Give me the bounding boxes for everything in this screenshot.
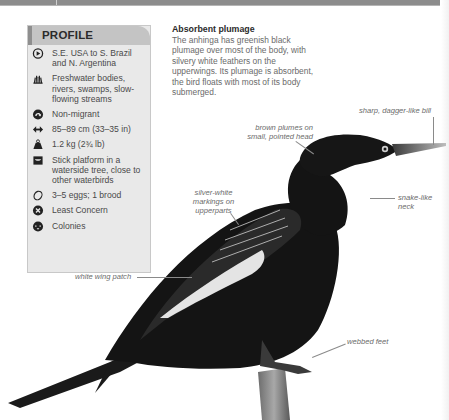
migration-arrow-icon: [32, 109, 44, 120]
profile-panel: PROFILE S.E. USA to S. Brazil and N. Arg…: [27, 25, 151, 273]
profile-item-text: Non-migrant: [52, 109, 99, 119]
profile-item-text: Stick platform in a waterside tree, clos…: [52, 155, 140, 185]
description-heading: Absorbent plumage: [172, 24, 322, 35]
nest-icon: [32, 155, 44, 166]
annotation-markings: silver-white markings on upperparts: [186, 188, 241, 215]
profile-list: S.E. USA to S. Brazil and N. Argentina F…: [28, 45, 150, 231]
annotation-neck: snake-like neck: [398, 193, 438, 211]
social-colonies-icon: [32, 221, 44, 232]
description-block: Absorbent plumage The anhinga has greeni…: [172, 24, 322, 97]
length-arrows-icon: [32, 124, 44, 135]
profile-item-status: Least Concern: [28, 205, 150, 215]
profile-item-text: Freshwater bodies, rivers, swamps, slow-…: [52, 73, 134, 103]
profile-item-text: Colonies: [52, 221, 85, 231]
profile-item-social: Colonies: [28, 221, 150, 231]
leader-neck: [370, 198, 395, 199]
profile-title: PROFILE: [42, 29, 93, 41]
profile-item-text: 3–5 eggs; 1 brood: [52, 190, 121, 200]
egg-icon: [32, 190, 44, 201]
conservation-status-icon: [32, 205, 44, 216]
leader-wing-patch: [137, 277, 192, 278]
range-globe-icon: [32, 48, 44, 59]
profile-item-text: S.E. USA to S. Brazil and N. Argentina: [52, 48, 132, 68]
description-body: The anhinga has greenish black plumage o…: [172, 35, 322, 97]
profile-item-range: S.E. USA to S. Brazil and N. Argentina: [28, 48, 150, 68]
habitat-reeds-icon: [32, 73, 44, 84]
annotation-head: brown plumes on small, pointed head: [238, 123, 313, 141]
annotation-bill: sharp, dagger-like bill: [359, 106, 449, 115]
profile-item-eggs: 3–5 eggs; 1 brood: [28, 190, 150, 200]
profile-item-text: Least Concern: [52, 205, 108, 215]
leader-bill: [433, 117, 434, 145]
profile-item-weight: 1.2 kg (2¾ lb): [28, 139, 150, 149]
weight-icon: [32, 139, 44, 150]
profile-header: PROFILE: [28, 26, 150, 45]
profile-item-text: 1.2 kg (2¾ lb): [52, 139, 105, 149]
profile-item-text: 85–89 cm (33–35 in): [52, 124, 131, 134]
profile-item-habitat: Freshwater bodies, rivers, swamps, slow-…: [28, 73, 150, 104]
profile-item-nest: Stick platform in a waterside tree, clos…: [28, 155, 150, 186]
profile-item-length: 85–89 cm (33–35 in): [28, 124, 150, 134]
annotation-feet: webbed feet: [347, 337, 407, 346]
profile-item-migration: Non-migrant: [28, 109, 150, 119]
